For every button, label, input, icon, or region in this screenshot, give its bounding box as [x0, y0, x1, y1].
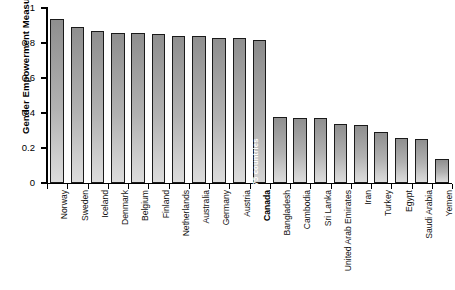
y-axis-tick-label: 0.8	[0, 38, 35, 48]
x-axis-tick	[108, 184, 109, 189]
bar-saudi-arabia	[415, 139, 428, 183]
bar-canada: 11th of 75 countries	[253, 40, 266, 184]
x-axis-tick	[88, 184, 89, 189]
x-axis-tick	[148, 184, 149, 189]
bar-norway	[50, 19, 63, 184]
x-axis-tick	[189, 184, 190, 189]
bar-cambodia	[293, 118, 306, 183]
bar-finland	[152, 34, 165, 183]
y-axis-tick-label: 0.4	[0, 108, 35, 118]
x-axis-label-austria: Austria	[243, 190, 252, 217]
x-axis-tick	[432, 184, 433, 189]
x-axis-label-sri-lanka: Sri Lanka	[324, 190, 333, 226]
x-axis-tick	[310, 184, 311, 189]
bar-belgium	[131, 33, 144, 184]
x-axis-label-germany: Germany	[222, 190, 231, 225]
x-axis-label-iceland: Iceland	[101, 190, 110, 218]
x-axis-tick	[67, 184, 68, 189]
x-axis-tick	[331, 184, 332, 189]
x-axis-label-denmark: Denmark	[121, 190, 130, 225]
bar-turkey	[374, 132, 387, 183]
x-axis-label-canada: Canada	[263, 190, 272, 221]
x-axis-label-norway: Norway	[60, 190, 69, 219]
x-axis-tick	[209, 184, 210, 189]
gender-empowerment-bar-chart: Gender Empowerment Measure 00.20.40.60.8…	[0, 0, 455, 290]
x-axis-label-united-arab-emirates: United Arab Emirates	[344, 190, 353, 271]
x-axis-label-cambodia: Cambodia	[303, 190, 312, 229]
x-axis-label-netherlands: Netherlands	[182, 190, 191, 236]
bar-yemen	[435, 159, 448, 184]
x-axis-label-turkey: Turkey	[384, 190, 393, 216]
x-axis-label-belgium: Belgium	[141, 190, 150, 221]
bar-sri-lanka	[314, 118, 327, 183]
x-axis-label-egypt: Egypt	[405, 190, 414, 212]
x-axis-tick	[351, 184, 352, 189]
y-axis-tick-label: 0	[0, 178, 35, 188]
x-axis-label-finland: Finland	[162, 190, 171, 218]
x-axis-tick	[229, 184, 230, 189]
bar-egypt	[395, 138, 408, 184]
bar-denmark	[111, 33, 124, 184]
bar-united-arab-emirates	[334, 124, 347, 184]
y-axis-tick-label: 0.6	[0, 73, 35, 83]
bar-germany	[212, 38, 225, 183]
bar-iran	[354, 125, 367, 183]
x-axis-label-saudi-arabia: Saudi Arabia	[425, 190, 434, 239]
bar-australia	[192, 36, 205, 183]
y-axis-tick-label: 1	[0, 3, 35, 13]
plot-area: 11th of 75 countries	[47, 8, 452, 183]
x-axis-tick	[391, 184, 392, 189]
x-axis-label-bangladesh: Bangladesh	[283, 190, 292, 235]
x-axis-label-iran: Iran	[364, 190, 373, 205]
bar-sweden	[71, 27, 84, 183]
x-axis-tick	[270, 184, 271, 189]
x-axis-label-sweden: Sweden	[81, 190, 90, 221]
bar-iceland	[91, 31, 104, 183]
x-axis-label-yemen: Yemen	[445, 190, 454, 216]
x-axis-label-australia: Australia	[202, 190, 211, 223]
x-axis-tick	[290, 184, 291, 189]
y-axis-tick-label: 0.2	[0, 143, 35, 153]
x-axis-tick	[371, 184, 372, 189]
bar-bangladesh	[273, 117, 286, 184]
x-axis-tick	[47, 184, 48, 189]
x-axis-tick	[412, 184, 413, 189]
bar-austria	[233, 38, 246, 183]
bar-netherlands	[172, 36, 185, 183]
x-axis-tick	[169, 184, 170, 189]
x-axis-tick	[128, 184, 129, 189]
x-axis-tick	[452, 184, 453, 189]
